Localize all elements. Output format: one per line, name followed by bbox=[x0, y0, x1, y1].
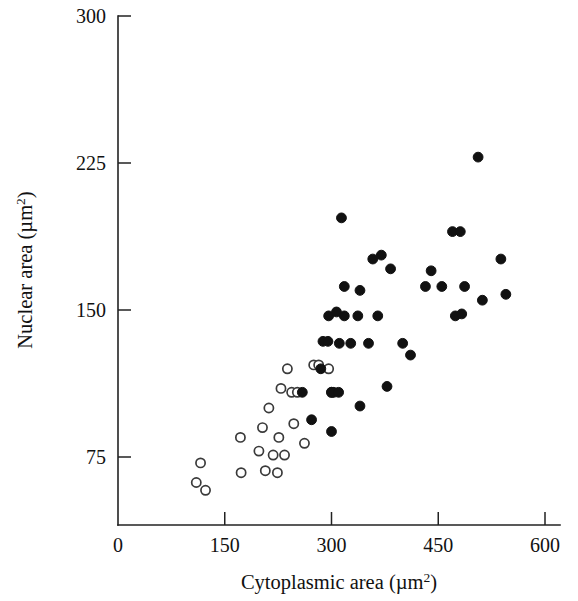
data-point-filled bbox=[398, 338, 408, 348]
data-point-open bbox=[276, 384, 285, 393]
x-tick-group: 0150300450600 bbox=[113, 512, 560, 556]
data-point-open bbox=[201, 486, 210, 495]
data-point-filled bbox=[297, 387, 307, 397]
data-point-filled bbox=[473, 152, 483, 162]
data-point-filled bbox=[316, 364, 326, 374]
y-tick-label: 75 bbox=[86, 446, 106, 468]
data-point-filled bbox=[496, 254, 506, 264]
data-point-filled bbox=[334, 387, 344, 397]
x-tick-label: 450 bbox=[423, 534, 453, 556]
x-tick-label: 300 bbox=[317, 534, 347, 556]
data-point-filled bbox=[386, 264, 396, 274]
data-point-open bbox=[192, 478, 201, 487]
data-point-open bbox=[269, 450, 278, 459]
x-tick-label: 150 bbox=[210, 534, 240, 556]
data-point-filled bbox=[334, 338, 344, 348]
y-tick-group: 75150225300 bbox=[76, 5, 131, 468]
data-point-filled bbox=[457, 309, 467, 319]
x-tick-label: 600 bbox=[530, 534, 560, 556]
data-point-open bbox=[289, 419, 298, 428]
data-point-open bbox=[264, 403, 273, 412]
data-point-filled bbox=[426, 266, 436, 276]
data-point-filled bbox=[373, 311, 383, 321]
data-point-filled bbox=[501, 289, 511, 299]
data-point-open bbox=[236, 433, 245, 442]
data-point-filled bbox=[346, 338, 356, 348]
data-point-filled bbox=[437, 282, 447, 292]
data-point-filled bbox=[339, 282, 349, 292]
data-point-filled bbox=[382, 382, 392, 392]
data-point-open bbox=[261, 466, 270, 475]
data-point-open bbox=[273, 468, 282, 477]
data-point-open bbox=[258, 423, 267, 432]
data-point-filled bbox=[307, 415, 317, 425]
data-point-filled bbox=[455, 227, 465, 237]
data-point-open bbox=[196, 458, 205, 467]
data-point-filled bbox=[406, 350, 416, 360]
y-tick-label: 225 bbox=[76, 152, 106, 174]
y-axis-title: Nuclear area (µm2) bbox=[13, 191, 37, 348]
data-point-filled bbox=[421, 282, 431, 292]
data-point-open bbox=[283, 364, 292, 373]
y-tick-label: 300 bbox=[76, 5, 106, 27]
data-point-filled bbox=[339, 311, 349, 321]
data-point-open bbox=[280, 450, 289, 459]
data-point-filled bbox=[364, 338, 374, 348]
data-point-open bbox=[300, 439, 309, 448]
data-point-filled bbox=[355, 401, 365, 411]
data-point-filled bbox=[355, 286, 365, 296]
data-point-filled bbox=[376, 250, 386, 260]
data-point-filled bbox=[460, 282, 470, 292]
data-point-open bbox=[237, 468, 246, 477]
data-point-filled bbox=[327, 427, 337, 437]
data-point-filled bbox=[477, 295, 487, 305]
scatter-plot-figure: 75150225300 0150300450600 Cytoplasmic ar… bbox=[0, 0, 578, 601]
data-point-open bbox=[254, 447, 263, 456]
data-series-filled-circles bbox=[297, 152, 510, 436]
data-series-open-circles bbox=[192, 360, 336, 495]
data-point-filled bbox=[323, 336, 333, 346]
data-point-open bbox=[274, 433, 283, 442]
plot-canvas: 75150225300 0150300450600 Cytoplasmic ar… bbox=[0, 0, 578, 601]
data-point-filled bbox=[353, 311, 363, 321]
x-tick-label: 0 bbox=[113, 534, 123, 556]
y-tick-label: 150 bbox=[76, 299, 106, 321]
data-point-filled bbox=[337, 213, 347, 223]
x-axis-title: Cytoplasmic area (µm2) bbox=[241, 570, 437, 594]
